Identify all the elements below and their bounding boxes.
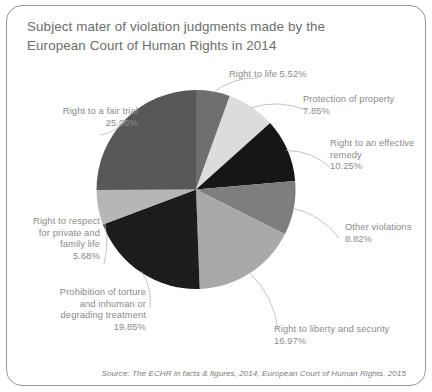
slice-label-right-to-life: Right to life 5.52%: [229, 68, 379, 80]
slice-label-other-violations: Other violations 8.82%: [345, 221, 431, 244]
leader-line: [286, 150, 330, 167]
leader-line: [213, 78, 258, 93]
slice-label-protection-of-property: Protection of property 7.85%: [303, 93, 427, 116]
chart-figure: Subject mater of violation judgments mad…: [0, 0, 432, 392]
slice-label-fair-trial: Right to a fair trial 25.06%: [34, 105, 138, 128]
leader-line: [293, 208, 339, 238]
leader-line: [249, 272, 278, 330]
slice-label-effective-remedy: Right to an effective remedy 10.25%: [330, 137, 430, 172]
slice-label-private-family-life: Right to respect for private and family …: [10, 215, 100, 261]
slice-label-liberty-and-security: Right to liberty and security 16.97%: [274, 323, 424, 346]
slice-label-prohibition-of-torture: Prohibition of torture and inhuman or de…: [20, 286, 146, 332]
leader-line: [251, 104, 306, 110]
source-note: Source: The ECHR in facts & figures, 201…: [102, 369, 406, 378]
